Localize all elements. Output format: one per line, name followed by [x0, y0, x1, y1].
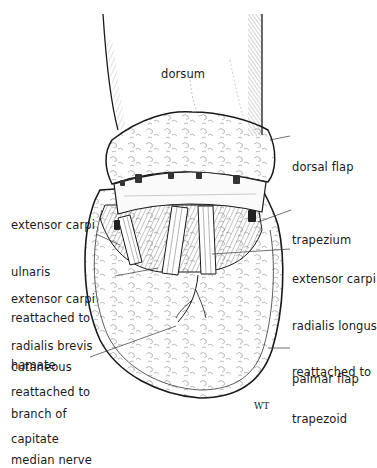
label-text: extensor carpi: [11, 218, 95, 234]
label-text: branch of: [11, 407, 92, 423]
label-text: extensor carpi: [292, 272, 377, 288]
artist-signature: WT: [254, 381, 269, 431]
label-text: radialis longus: [292, 319, 377, 335]
label-palmar-flap: palmar flap: [292, 341, 359, 419]
label-text: palmar flap: [292, 372, 359, 388]
label-text: dorsum: [161, 67, 205, 83]
label-dorsum: dorsum: [161, 36, 205, 114]
signature-text: WT: [254, 401, 269, 411]
label-text: extensor carpi: [11, 292, 95, 308]
label-dorsal-flap: dorsal flap: [292, 129, 354, 207]
label-cutaneous-branch-median-nerve: cutaneous branch of median nerve: [11, 329, 92, 468]
label-text: dorsal flap: [292, 160, 354, 176]
label-text: median nerve: [11, 453, 92, 468]
dorsal-flap-shape: [106, 112, 275, 214]
label-text: cutaneous: [11, 360, 92, 376]
